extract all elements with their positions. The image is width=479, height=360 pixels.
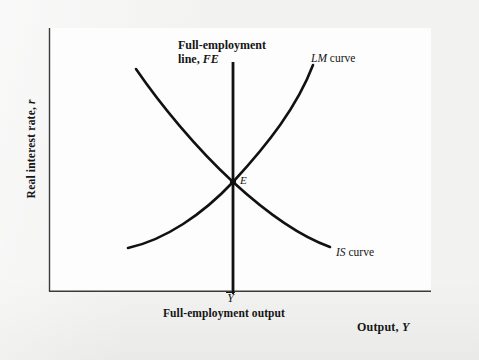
y-axis-title-text: Real interest rate, xyxy=(25,104,37,198)
x-axis-title-text: Output, xyxy=(357,320,402,334)
x-axis-tick-label: Y xyxy=(226,292,235,305)
lm-curve-label: LM curve xyxy=(311,52,355,66)
figure-container: Real interest rate, r Output, Y Full-emp… xyxy=(0,0,479,360)
is-label-text: curve xyxy=(346,246,374,258)
y-axis-title-symbol: r xyxy=(25,99,37,104)
equilibrium-point-marker xyxy=(230,179,236,185)
fe-line-label: Full-employment line, FE xyxy=(178,38,266,66)
fe-label-line2-symbol: FE xyxy=(203,52,219,66)
is-curve-label: IS curve xyxy=(336,246,374,260)
y-axis-title: Real interest rate, r xyxy=(25,69,39,229)
fe-label-line1: Full-employment xyxy=(178,38,266,52)
equilibrium-point-label: E xyxy=(240,174,247,187)
fe-label-line2: line, FE xyxy=(178,52,266,66)
x-axis-tick-symbol: Y xyxy=(227,291,234,305)
fe-label-line2-text: line, xyxy=(178,52,203,66)
lm-label-text: curve xyxy=(327,52,355,64)
full-employment-output-caption: Full-employment output xyxy=(163,307,285,321)
lm-label-symbol: LM xyxy=(311,52,327,64)
lm-curve xyxy=(128,65,313,248)
x-axis-title-symbol: Y xyxy=(402,320,410,334)
x-axis-title: Output, Y xyxy=(357,320,409,334)
is-label-symbol: IS xyxy=(336,246,346,258)
